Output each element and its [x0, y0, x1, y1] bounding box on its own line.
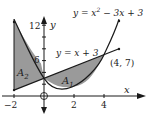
endpoint-dot: [13, 21, 15, 23]
area-between-curves-figure: y x 12 6 −2 2 4 y = x2 − 3x + 3 y = x + …: [0, 0, 151, 115]
y-axis-down-arrow-icon: [41, 107, 47, 114]
endpoint-dot: [118, 48, 120, 50]
x-tick-label-2: 2: [71, 100, 77, 110]
parabola-label: y = x2 − 3x + 3: [72, 6, 144, 18]
intersection-label: (4, 7): [110, 58, 134, 68]
x-axis-label: x: [124, 84, 130, 95]
line-label: y = x + 3: [55, 48, 99, 58]
endpoint-dot: [13, 89, 15, 91]
y-axis-label: y: [49, 19, 56, 30]
y-axis-arrow-icon: [41, 16, 47, 24]
x-axis-arrow-icon: [137, 93, 146, 99]
region-a1: [44, 55, 104, 88]
endpoint-dot: [118, 20, 120, 22]
x-tick-label-4: 4: [101, 100, 107, 110]
y-tick-label-12: 12: [29, 21, 40, 31]
x-tick-label-neg2: −2: [4, 100, 17, 110]
y-tick-label-6: 6: [34, 55, 40, 65]
